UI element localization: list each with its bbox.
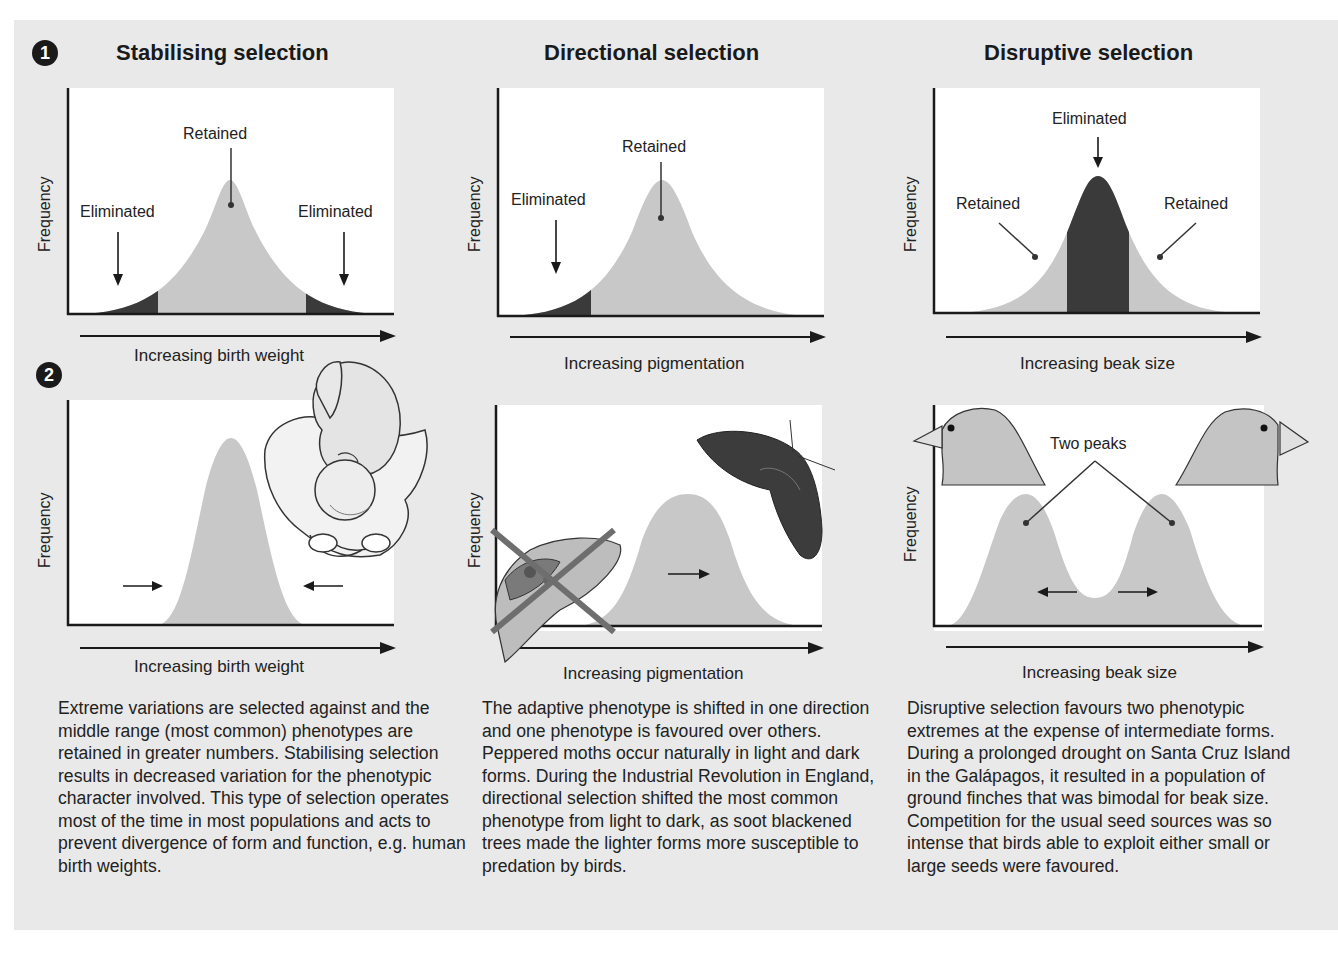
x-axis-label: Increasing beak size: [1022, 663, 1177, 683]
description-directional: The adaptive phenotype is shifted in one…: [482, 697, 882, 877]
large-beak-finch-illustration: [1176, 409, 1308, 485]
description-stabilising: Extreme variations are selected against …: [58, 697, 478, 877]
description-disruptive: Disruptive selection favours two phenoty…: [907, 697, 1307, 877]
y-axis-label: Frequency: [902, 486, 920, 562]
annotation-two-peaks: Two peaks: [1050, 435, 1126, 453]
